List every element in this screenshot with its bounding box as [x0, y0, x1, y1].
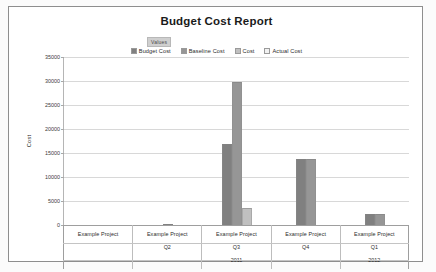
- category-axis-table: Example ProjectExample ProjectQ2Example …: [63, 225, 409, 269]
- legend-item-label: Budget Cost: [139, 48, 171, 54]
- bar[interactable]: [232, 82, 242, 225]
- category-quarter-label: Q3: [233, 244, 240, 250]
- y-axis-tick-label: 5000: [20, 198, 60, 204]
- scan-background: Budget Cost Report Values Budget CostBas…: [0, 0, 436, 272]
- bar-group: [202, 57, 271, 225]
- category-quarter-label: Q2: [164, 244, 171, 250]
- y-axis-tick-label: 15000: [20, 150, 60, 156]
- category-quarter-label: Q4: [302, 244, 309, 250]
- report-frame: Budget Cost Report Values Budget CostBas…: [8, 6, 423, 262]
- legend-item[interactable]: Budget Cost: [131, 48, 171, 54]
- bar[interactable]: [365, 214, 375, 226]
- bar-group: [272, 57, 341, 225]
- legend-items: Budget CostBaseline CostCostActual Cost: [9, 48, 424, 54]
- category-project-label: Example Project: [354, 231, 395, 237]
- bar[interactable]: [242, 208, 252, 225]
- y-axis-tick-label: 0: [20, 222, 60, 228]
- y-axis-tick-label: 35000: [20, 54, 60, 60]
- legend-swatch-icon: [264, 48, 270, 54]
- bar[interactable]: [296, 159, 306, 225]
- y-axis-tick-label: 10000: [20, 174, 60, 180]
- legend-swatch-icon: [181, 48, 187, 54]
- y-axis-tick-label: 25000: [20, 102, 60, 108]
- category-quarter-label: Q1: [371, 244, 378, 250]
- category-project-label: Example Project: [216, 231, 257, 237]
- legend-item[interactable]: Cost: [235, 48, 255, 54]
- plot-inner: 35000300002500020000150001000050000: [63, 57, 409, 225]
- bar[interactable]: [306, 159, 316, 225]
- legend-item-label: Actual Cost: [272, 48, 302, 54]
- category-project-label: Example Project: [147, 231, 188, 237]
- y-axis-tick-label: 30000: [20, 78, 60, 84]
- y-axis-title: Cost: [26, 135, 32, 147]
- legend-swatch-icon: [235, 48, 241, 54]
- legend-item-label: Baseline Cost: [189, 48, 225, 54]
- legend-item-label: Cost: [243, 48, 255, 54]
- category-table-bottom-border: [63, 260, 409, 261]
- bar[interactable]: [375, 214, 385, 226]
- bar-group: [64, 57, 133, 225]
- category-cell: Example ProjectQ12012: [340, 225, 409, 269]
- legend-swatch-icon: [131, 48, 137, 54]
- category-cell: Example ProjectQ32011: [201, 225, 270, 269]
- category-project-label: Example Project: [285, 231, 326, 237]
- y-axis-tick-label: 20000: [20, 126, 60, 132]
- bar-group: [133, 57, 202, 225]
- category-cell: Example ProjectQ2: [132, 225, 201, 269]
- legend-group-label: Values: [147, 37, 171, 47]
- category-cell: Example Project: [63, 225, 132, 269]
- category-cell: Example ProjectQ4: [271, 225, 340, 269]
- page-title: Budget Cost Report: [9, 15, 424, 27]
- bar[interactable]: [222, 144, 232, 225]
- category-table-row-border: [63, 243, 409, 244]
- category-project-label: Example Project: [78, 231, 119, 237]
- plot-area: Cost 35000300002500020000150001000050000: [63, 57, 409, 225]
- legend-item[interactable]: Actual Cost: [264, 48, 302, 54]
- legend-item[interactable]: Baseline Cost: [181, 48, 225, 54]
- bar-group: [341, 57, 410, 225]
